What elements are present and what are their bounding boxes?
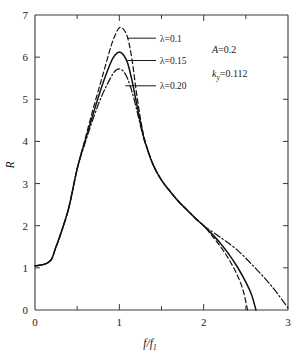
y-tick-label: 2 (23, 220, 29, 232)
series-line-lambda-0-15 (35, 52, 256, 310)
series-labels: λ=0.1λ=0.15λ=0.20 (160, 34, 187, 92)
chart-canvas: 01234567 0123 λ=0.1λ=0.15λ=0.20 R f/f1 A… (0, 0, 302, 355)
annotation-amplitude: A=0.2 (211, 44, 236, 55)
chart-figure: 01234567 0123 λ=0.1λ=0.15λ=0.20 R f/f1 A… (0, 0, 302, 355)
y-axis-title: R (4, 161, 16, 169)
y-tick-label: 7 (23, 9, 29, 21)
series-label-lambda-0-1: λ=0.1 (160, 34, 182, 44)
x-axis-title: f/f1 (143, 337, 156, 352)
parameter-annotations: A=0.2 ky=0.112 (211, 44, 248, 82)
x-tick-label: 1 (117, 316, 123, 328)
x-axis-ticks (77, 304, 246, 310)
annotation-stiffness: ky=0.112 (212, 68, 248, 82)
series-label-lambda-0-15: λ=0.15 (160, 56, 187, 66)
x-tick-label: 2 (201, 316, 207, 328)
annotation-stiffness-value: =0.112 (220, 68, 248, 79)
y-tick-label: 4 (23, 135, 29, 147)
annotation-amplitude-value: =0.2 (218, 44, 236, 55)
y-axis-ticks-right (283, 57, 288, 268)
x-axis-tick-labels: 0123 (32, 316, 291, 328)
y-axis-ticks (35, 57, 40, 268)
series-line-lambda-0-20 (35, 69, 288, 308)
chart-series-group (35, 27, 288, 310)
y-axis-tick-labels: 01234567 (23, 9, 29, 316)
y-tick-label: 0 (23, 304, 29, 316)
x-axis-title-subscript: 1 (153, 343, 157, 352)
x-axis-ticks-top (77, 15, 246, 21)
y-tick-label: 6 (23, 51, 29, 63)
y-tick-label: 3 (23, 178, 29, 190)
x-tick-label: 0 (32, 316, 38, 328)
series-label-lambda-0-20: λ=0.20 (160, 81, 187, 91)
y-tick-label: 1 (23, 262, 29, 274)
y-tick-label: 5 (23, 93, 29, 105)
x-tick-label: 3 (285, 316, 291, 328)
svg-text:f/f1: f/f1 (143, 337, 156, 352)
